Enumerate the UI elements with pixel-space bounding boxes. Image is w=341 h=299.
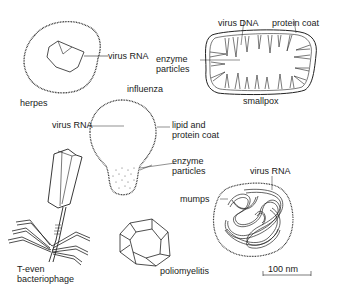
mumps-virus [214,176,293,256]
virus-comparison-diagram: virus RNA herpes virus DNA protein coat … [0,0,341,299]
smallpox-virus [200,20,316,95]
scale-bar-label: 100 nm [268,264,298,274]
influenza-coat-label-2: protein coat [172,130,219,140]
herpes-virus [24,22,108,93]
smallpox-dna-label: virus DNA [218,18,259,28]
smallpox-name-label: smallpox [243,96,279,106]
poliomyelitis-virus [120,219,170,266]
bacteriophage-virus [8,149,90,265]
herpes-name-label: herpes [20,98,48,108]
herpes-rna-label: virus RNA [108,51,149,61]
influenza-virus [88,100,175,195]
diagram-drawing [0,0,341,299]
influenza-name-label: influenza [127,84,163,94]
influenza-enzyme-label-2: particles [172,166,206,176]
bacteriophage-name-label-2: bacteriophage [17,274,74,284]
mumps-rna-label: virus RNA [250,166,291,176]
influenza-coat-label-1: lipid and [172,120,206,130]
mumps-name-label: mumps [180,194,210,204]
bacteriophage-name-label-1: T-even [17,264,45,274]
smallpox-coat-label: protein coat [272,18,319,28]
smallpox-enzyme-label-2: particles [156,64,190,74]
influenza-enzyme-label-1: enzyme [172,156,204,166]
influenza-rna-label: virus RNA [52,120,93,130]
poliomyelitis-name-label: poliomyelitis [160,266,209,276]
smallpox-enzyme-label-1: enzyme [156,54,188,64]
